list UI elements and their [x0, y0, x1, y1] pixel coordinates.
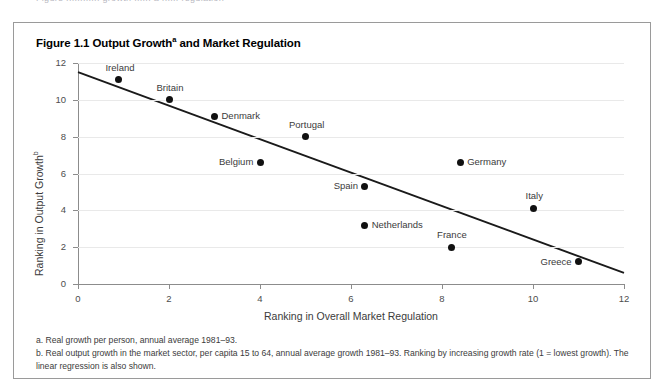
gridline-y: [78, 174, 624, 175]
data-point-label: Denmark: [222, 110, 261, 121]
y-axis-tick-label: 2: [42, 241, 66, 252]
x-axis-tick-label: 8: [430, 293, 454, 304]
x-axis-tick-label: 4: [248, 293, 272, 304]
data-point: [166, 96, 173, 103]
data-point-label: Ireland: [105, 62, 134, 73]
y-axis-tick-label: 6: [42, 168, 66, 179]
y-axis-tick: [73, 137, 78, 138]
data-point: [530, 205, 537, 212]
y-axis-tick-label: 8: [42, 131, 66, 142]
gridline-y: [78, 137, 624, 138]
data-point-label: Greece: [541, 256, 572, 267]
data-point: [257, 159, 264, 166]
page-cutoff-strip: Figure ............ growth ...... a ....…: [0, 0, 665, 12]
x-axis-tick: [624, 284, 625, 289]
data-point-label: Belgium: [219, 156, 253, 167]
x-axis-tick-label: 2: [157, 293, 181, 304]
data-point-label: Portugal: [289, 119, 324, 130]
x-axis-tick-label: 6: [339, 293, 363, 304]
plot-area: Ranking in Output Growthb Ranking in Ove…: [14, 23, 652, 323]
data-point: [457, 159, 464, 166]
y-axis-label-footnote-marker: b: [32, 151, 39, 155]
gridline-y: [78, 210, 624, 211]
y-axis-tick: [73, 210, 78, 211]
data-point: [361, 222, 368, 229]
data-point-label: France: [437, 229, 467, 240]
gridline-y: [78, 247, 624, 248]
cutoff-text: Figure ............ growth ...... a ....…: [36, 0, 224, 3]
x-axis-tick: [169, 284, 170, 289]
data-point-label: Germany: [467, 156, 506, 167]
x-axis-tick: [533, 284, 534, 289]
data-point-label: Italy: [526, 190, 543, 201]
figure-note-a: a. Real growth per person, annual averag…: [36, 334, 634, 346]
data-point-label: Britain: [157, 82, 184, 93]
x-axis-tick: [78, 284, 79, 289]
y-axis-tick: [73, 63, 78, 64]
y-axis-tick-label: 12: [42, 57, 66, 68]
x-axis-tick: [260, 284, 261, 289]
data-point: [211, 113, 218, 120]
y-axis-tick-label: 0: [42, 278, 66, 289]
figure-notes: a. Real growth per person, annual averag…: [36, 334, 634, 372]
y-axis-tick-label: 4: [42, 204, 66, 215]
x-axis-tick: [442, 284, 443, 289]
x-axis-tick-label: 0: [66, 293, 90, 304]
y-axis-tick-label: 10: [42, 94, 66, 105]
figure-box: Figure 1.1 Output Growtha and Market Reg…: [13, 22, 651, 379]
x-axis-label: Ranking in Overall Market Regulation: [264, 310, 438, 322]
figure-note-b: b. Real output growth in the market sect…: [36, 347, 634, 372]
data-point-label: Netherlands: [372, 219, 423, 230]
data-point: [448, 244, 455, 251]
data-point-label: Spain: [334, 180, 358, 191]
data-point: [361, 183, 368, 190]
x-axis-tick-label: 12: [612, 293, 636, 304]
gridline-y: [78, 63, 624, 64]
x-axis-tick-label: 10: [521, 293, 545, 304]
y-axis-tick: [73, 100, 78, 101]
x-axis-tick: [351, 284, 352, 289]
gridline-y: [78, 100, 624, 101]
y-axis-tick: [73, 247, 78, 248]
y-axis-tick: [73, 174, 78, 175]
